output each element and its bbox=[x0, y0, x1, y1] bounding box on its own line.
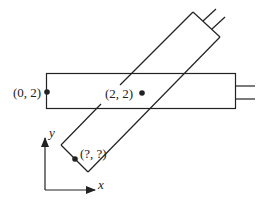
point-a-label: (0, 2) bbox=[13, 86, 41, 99]
rotated-lead-1 bbox=[203, 9, 216, 21]
rotated-lead-2 bbox=[212, 17, 225, 29]
point-c-dot bbox=[72, 156, 78, 162]
point-b-dot bbox=[139, 90, 145, 96]
point-a-dot bbox=[44, 89, 50, 95]
y-axis-label: y bbox=[49, 126, 55, 139]
diagram-canvas: (0, 2) (2, 2) (?, ?) y x bbox=[0, 0, 267, 201]
point-c-label: (?, ?) bbox=[80, 147, 107, 160]
diagram-graphics bbox=[0, 0, 267, 201]
point-b-label: (2, 2) bbox=[105, 87, 133, 100]
x-axis-label: x bbox=[98, 178, 104, 191]
